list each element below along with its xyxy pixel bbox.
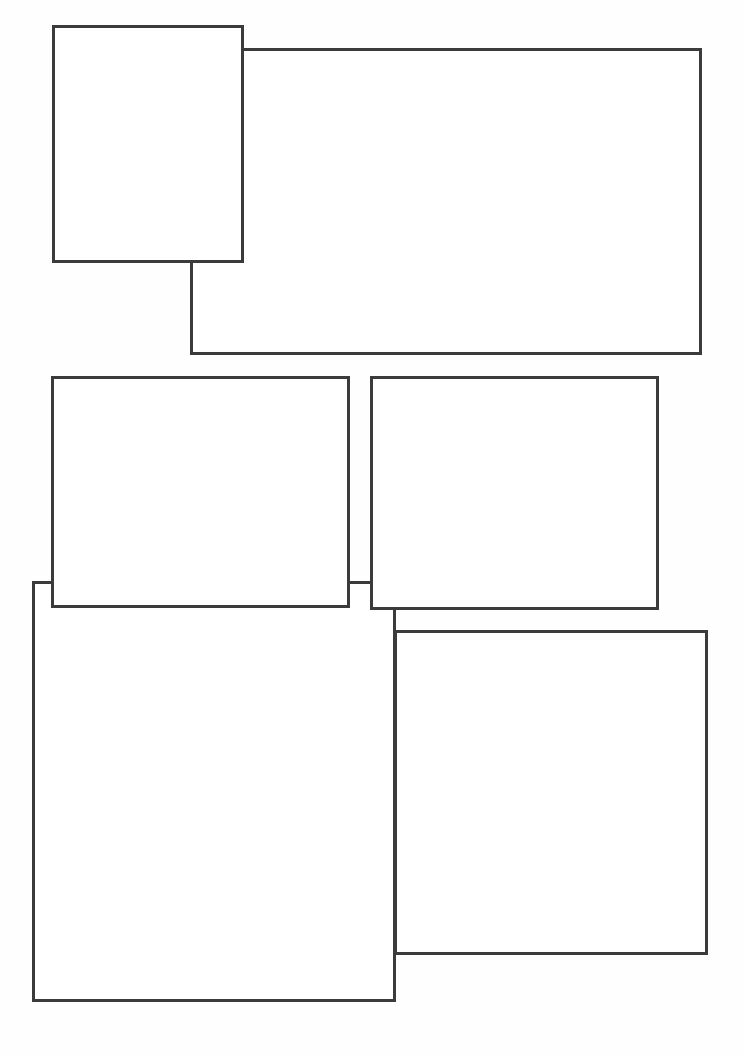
panel-bottom-left-tall	[32, 581, 396, 1002]
faint-bleed-through-text	[0, 0, 745, 22]
comic-page	[0, 0, 745, 1055]
panel-top-left-tall	[52, 25, 244, 263]
panel-top-right-wide	[190, 48, 702, 355]
panel-middle-left	[51, 376, 350, 608]
panel-middle-right	[370, 376, 659, 610]
panel-bottom-right	[394, 630, 708, 955]
